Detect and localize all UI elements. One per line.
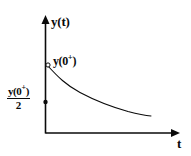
- decay-curve: [48, 66, 152, 117]
- x-axis-label: t: [177, 137, 181, 150]
- decay-curve-figure: y(t) t y(0+) y(0+) 2: [0, 0, 191, 156]
- half-value-numerator-base: y(0: [8, 85, 21, 97]
- plot-canvas: [0, 0, 191, 156]
- half-value-dot-marker: [43, 100, 47, 104]
- y-axis-label: y(t): [51, 15, 70, 28]
- y-axis-arrowhead: [42, 15, 50, 24]
- initial-value-base: y(0: [53, 54, 68, 68]
- half-value-annotation: y(0+) 2: [7, 86, 30, 111]
- half-value-numerator: y(0+): [7, 86, 30, 99]
- curve-start-open-circle-marker: [46, 63, 50, 67]
- x-axis-label-text: t: [177, 136, 181, 151]
- half-value-numerator-close-paren: ): [26, 85, 29, 97]
- y-axis-label-text: y(t): [51, 14, 70, 29]
- initial-value-annotation: y(0+): [53, 55, 76, 67]
- half-value-denominator: 2: [7, 99, 30, 111]
- initial-value-close-paren: ): [73, 54, 77, 68]
- half-value-fraction: y(0+) 2: [7, 86, 30, 111]
